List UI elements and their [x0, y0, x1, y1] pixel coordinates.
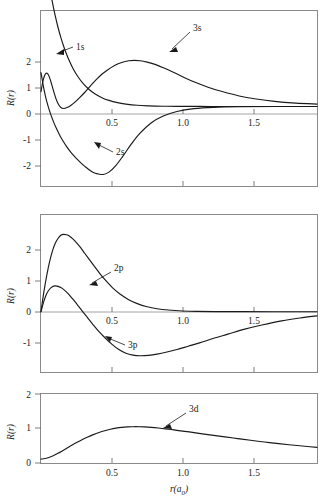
series-label-3p: 3p — [128, 340, 138, 350]
x-ticklabel-0p5: 0.5 — [106, 118, 118, 128]
panel-s-orbitals: 0 1 2 -1 -2 0.5 1.0 1.5 R(r) 1s 3s — [0, 0, 328, 200]
x-ticklabel-0p5: 0.5 — [106, 468, 118, 478]
y-ticklabel-neg2: -2 — [23, 161, 31, 171]
x-ticklabel-0p5: 0.5 — [106, 316, 118, 326]
x-ticklabel-1p5: 1.5 — [248, 468, 260, 478]
y-ticklabel-2: 2 — [26, 57, 31, 67]
panel-d-plot: 0 1 2 0.5 1.0 1.5 R(r) r(a0) 3d — [0, 390, 328, 497]
series-label-2s: 2s — [116, 147, 125, 157]
panel-p-orbitals: 0 1 2 -1 0.5 1.0 1.5 R(r) 2p 3p — [0, 208, 328, 384]
panel-d-orbital: 0 1 2 0.5 1.0 1.5 R(r) r(a0) 3d — [0, 390, 328, 497]
panel-s-curves — [41, 0, 317, 175]
y-ticklabel-1: 1 — [26, 276, 31, 286]
y-ticklabel-neg1: -1 — [23, 338, 31, 348]
y-ticklabel-2: 2 — [26, 245, 31, 255]
x-axis-title-paren-close: ) — [184, 484, 188, 495]
radial-wavefunction-figure: 0 1 2 -1 -2 0.5 1.0 1.5 R(r) 1s 3s — [0, 0, 328, 497]
y-axis-title: R(r) — [6, 424, 17, 441]
curve-3d — [41, 427, 317, 459]
y-ticklabel-1: 1 — [26, 423, 31, 433]
panel-d-curves — [41, 427, 317, 459]
y-axis-title: R(r) — [6, 90, 17, 107]
panel-p-axes — [35, 215, 318, 373]
y-axis-title: R(r) — [6, 288, 17, 305]
annotation-3s: 3s — [169, 23, 202, 52]
x-ticklabel-1p5: 1.5 — [248, 316, 260, 326]
plot-frame — [41, 394, 318, 464]
panel-p-curves — [41, 234, 317, 355]
x-ticklabel-1p0: 1.0 — [177, 118, 189, 128]
panel-s-plot: 0 1 2 -1 -2 0.5 1.0 1.5 R(r) 1s 3s — [0, 0, 328, 200]
y-ticklabel-1: 1 — [26, 83, 31, 93]
series-label-3d: 3d — [189, 404, 199, 414]
annotation-1s: 1s — [56, 42, 85, 55]
series-label-3s: 3s — [193, 23, 202, 33]
y-ticklabel-0: 0 — [26, 458, 31, 468]
series-label-2p: 2p — [114, 263, 124, 273]
curve-2p — [41, 234, 317, 311]
plot-frame — [41, 11, 318, 187]
y-ticklabel-neg1: -1 — [23, 135, 31, 145]
series-label-1s: 1s — [76, 42, 85, 52]
curve-3s — [41, 60, 317, 108]
x-axis-title: r(a0) — [170, 484, 188, 496]
panel-p-plot: 0 1 2 -1 0.5 1.0 1.5 R(r) 2p 3p — [0, 208, 328, 384]
y-ticklabel-2: 2 — [26, 390, 31, 400]
x-ticklabel-1p0: 1.0 — [177, 468, 189, 478]
panel-d-axes — [35, 394, 318, 464]
y-ticklabel-0: 0 — [26, 109, 31, 119]
curve-1s — [41, 0, 317, 106]
x-ticklabel-1p5: 1.5 — [248, 118, 260, 128]
y-ticklabel-0: 0 — [26, 307, 31, 317]
x-ticklabel-1p0: 1.0 — [177, 316, 189, 326]
annotation-3d: 3d — [163, 404, 199, 429]
annotation-2s: 2s — [94, 142, 125, 157]
